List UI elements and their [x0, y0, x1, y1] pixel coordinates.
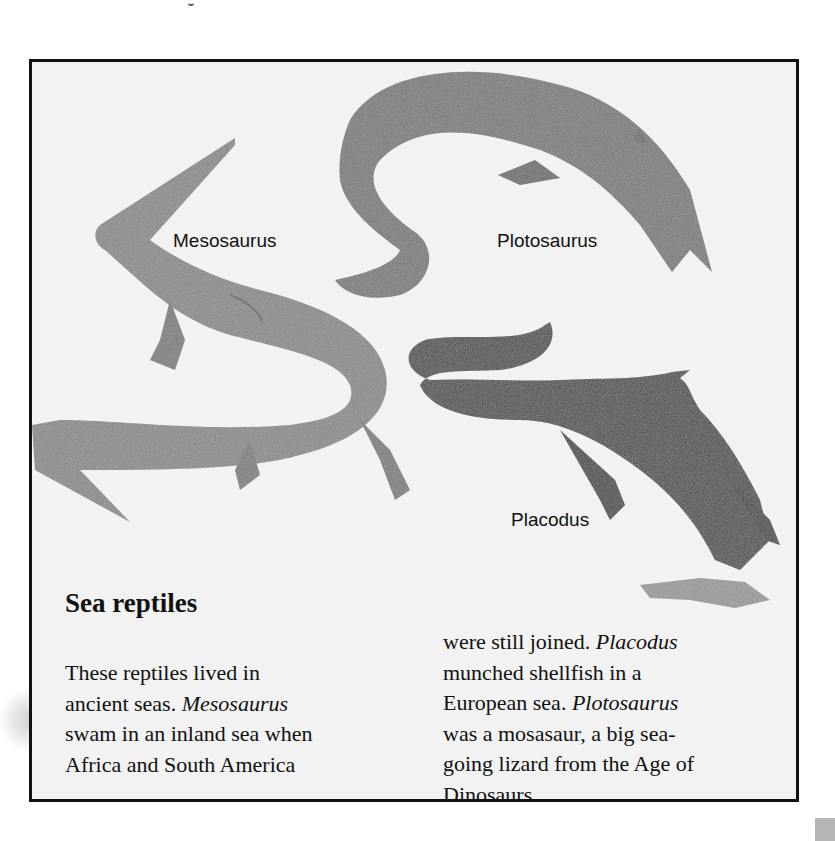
- species-name: Plotosaurus: [572, 690, 678, 715]
- species-name: Mesosaurus: [182, 691, 288, 716]
- body-text: European sea.: [443, 690, 572, 715]
- body-column-1: These reptiles lived in ancient seas. Me…: [65, 658, 395, 780]
- body-line: was a mosasaur, a big sea-: [443, 719, 773, 750]
- body-line: These reptiles lived in: [65, 658, 395, 689]
- body-line: European sea. Plotosaurus: [443, 688, 773, 719]
- placodus-label: Placodus: [511, 509, 589, 531]
- plotosaurus-figure: [335, 72, 712, 298]
- article-heading: Sea reptiles: [65, 588, 197, 619]
- body-text: were still joined.: [443, 629, 596, 654]
- body-line: swam in an inland sea when: [65, 719, 395, 750]
- body-line: Dinosaurs.: [443, 780, 773, 811]
- body-line: going lizard from the Age of: [443, 749, 773, 780]
- body-line: Africa and South America: [65, 750, 395, 781]
- page-corner-tab: [815, 818, 835, 841]
- placodus-figure: [409, 322, 780, 608]
- species-name: Placodus: [596, 629, 678, 654]
- plotosaurus-label: Plotosaurus: [497, 230, 597, 252]
- body-text: ancient seas.: [65, 691, 182, 716]
- body-line: munched shellfish in a: [443, 658, 773, 689]
- body-line: were still joined. Placodus: [443, 627, 773, 658]
- mesosaurus-label: Mesosaurus: [173, 230, 277, 252]
- body-line: ancient seas. Mesosaurus: [65, 689, 395, 720]
- body-column-2: were still joined. Placodus munched shel…: [443, 627, 773, 810]
